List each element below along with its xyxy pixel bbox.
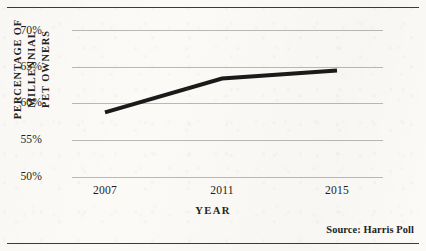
y-tick-label-60: 60% [0, 97, 42, 109]
x-tick-label-2011: 2011 [187, 184, 257, 197]
y-tick-label-70: 70% [0, 25, 42, 37]
chart-figure: PERCENTAGE OF MILLENNIAL PET OWNERS 70% … [0, 0, 426, 251]
x-tick-label-2015: 2015 [302, 184, 372, 197]
top-divider-rule [7, 7, 419, 8]
line-series [72, 28, 383, 178]
y-tick-label-50: 50% [0, 171, 42, 183]
x-tick-label-2007: 2007 [70, 184, 140, 197]
line-series-path [105, 70, 337, 112]
source-note: Source: Harris Poll [326, 224, 414, 235]
plot-area [72, 28, 383, 178]
y-tick-label-65: 65% [0, 61, 42, 73]
x-axis-title: YEAR [0, 205, 426, 216]
y-tick-label-55: 55% [0, 134, 42, 146]
bottom-divider-rule [7, 243, 419, 244]
